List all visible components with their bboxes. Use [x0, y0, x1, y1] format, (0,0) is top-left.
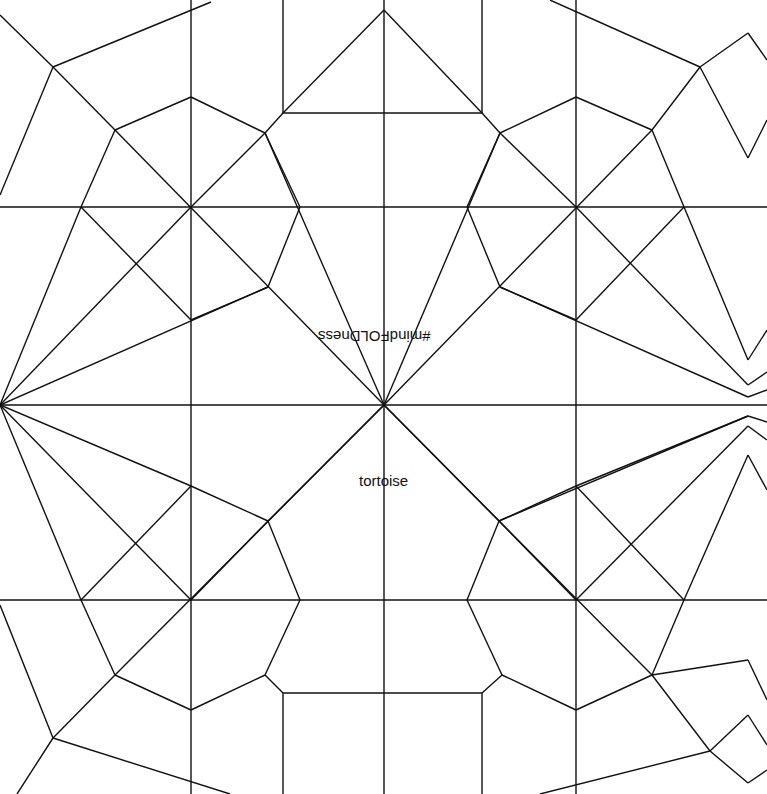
crease-line: [576, 416, 748, 486]
crease-line: [53, 675, 115, 738]
crease-lines: [0, 0, 767, 794]
crease-line: [550, 0, 700, 67]
crease-line: [81, 600, 115, 675]
crease-line: [0, 15, 53, 67]
crease-line: [684, 455, 748, 600]
crease-line: [265, 133, 384, 405]
crease-line: [115, 675, 191, 710]
crease-line: [467, 207, 500, 287]
crease-line: [748, 330, 767, 360]
hashtag-label: #mindFOLDness: [318, 328, 431, 345]
crease-line: [748, 715, 767, 745]
crease-line: [283, 10, 384, 113]
crease-line: [652, 660, 748, 675]
crease-line: [17, 738, 53, 794]
crease-line: [384, 10, 482, 113]
crease-line: [700, 67, 748, 158]
crease-line: [53, 67, 115, 130]
crease-line: [576, 97, 652, 130]
crease-line: [265, 600, 300, 675]
crease-line: [576, 675, 652, 710]
crease-line: [500, 287, 748, 397]
crease-line: [467, 600, 502, 675]
crease-pattern-canvas: #mindFOLDness tortoise: [0, 0, 767, 794]
crease-line: [748, 372, 767, 385]
crease-line: [499, 486, 576, 521]
crease-line: [191, 486, 268, 521]
crease-line: [268, 405, 384, 521]
crease-line: [748, 426, 767, 440]
crease-line: [748, 660, 767, 700]
crease-line: [268, 521, 300, 600]
crease-line: [748, 390, 767, 397]
crease-line: [748, 120, 767, 158]
crease-line: [748, 770, 767, 783]
crease-line: [53, 738, 230, 794]
crease-line: [684, 207, 748, 360]
crease-line: [748, 416, 767, 422]
crease-line: [115, 97, 191, 130]
crease-line: [384, 133, 500, 405]
crease-line: [0, 287, 268, 405]
crease-line: [191, 521, 268, 600]
crease-line: [499, 521, 576, 600]
crease-line: [500, 97, 576, 133]
crease-line: [384, 130, 652, 405]
crease-line: [265, 675, 283, 693]
crease-line: [710, 751, 748, 783]
crease-line: [700, 33, 748, 67]
crease-line: [0, 67, 53, 195]
crease-line: [748, 455, 767, 490]
crease-line: [652, 600, 684, 675]
crease-line: [191, 97, 265, 133]
crease-line: [0, 207, 191, 405]
crease-line: [81, 130, 115, 207]
crease-line: [482, 113, 500, 133]
crease-line: [748, 33, 767, 60]
crease-line: [115, 130, 384, 405]
crease-line: [0, 605, 53, 738]
crease-line: [652, 130, 684, 207]
crease-line: [502, 675, 576, 710]
crease-line: [53, 2, 211, 67]
crease-line: [652, 675, 710, 751]
crease-line: [191, 675, 265, 710]
crease-line: [268, 207, 300, 287]
crease-line: [191, 133, 265, 207]
model-name-label: tortoise: [359, 472, 408, 489]
crease-line: [265, 113, 283, 133]
crease-line: [540, 751, 710, 794]
crease-line: [710, 715, 748, 751]
crease-line: [652, 67, 700, 130]
crease-line: [500, 133, 576, 207]
crease-line: [467, 521, 499, 600]
crease-line: [482, 675, 502, 693]
crease-line: [0, 405, 191, 600]
